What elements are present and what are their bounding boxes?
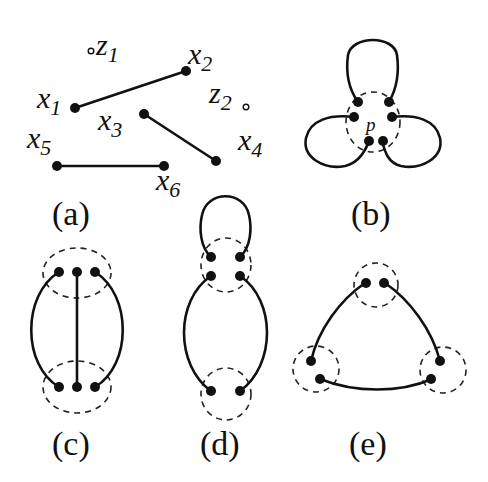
- dot: [54, 267, 64, 277]
- edge-x3-x4: [144, 114, 216, 161]
- dot: [206, 271, 216, 281]
- dot: [378, 136, 388, 146]
- edge-right: [240, 276, 267, 391]
- dot: [353, 97, 363, 107]
- dot: [387, 112, 397, 122]
- dot: [72, 267, 82, 277]
- edge-top-right: [385, 283, 440, 361]
- panel-c: (c): [31, 248, 123, 463]
- label-x6: x6: [155, 163, 180, 202]
- label-p: p: [364, 114, 376, 135]
- point-z1: [88, 48, 94, 54]
- dot: [54, 382, 64, 392]
- vertex-circle-left: [293, 346, 339, 392]
- dot: [90, 382, 100, 392]
- panel-a: x1 x2 x3 x4 x5 x6 z1 z2 (a): [26, 28, 262, 233]
- dot: [306, 356, 316, 366]
- label-z1: z1: [95, 28, 119, 67]
- caption-c: (c): [52, 425, 90, 463]
- panel-b: p (b): [306, 40, 441, 233]
- edge-left-right: [320, 379, 432, 390]
- dot: [235, 252, 245, 262]
- vertex-circle-top: [201, 238, 251, 292]
- label-z2: z2: [208, 76, 232, 115]
- vertex-circle-right: [420, 347, 466, 393]
- panel-d: (d): [184, 196, 267, 463]
- dot: [364, 136, 374, 146]
- point-x4: [211, 156, 221, 166]
- panel-e: (e): [293, 263, 466, 463]
- loop-top: [201, 196, 251, 257]
- point-x5: [52, 161, 62, 171]
- dot: [90, 267, 100, 277]
- point-z2: [243, 104, 249, 110]
- edge-left: [31, 272, 59, 387]
- dot: [315, 374, 325, 384]
- label-x4: x4: [237, 123, 262, 162]
- edge-left: [184, 276, 211, 391]
- dot: [235, 386, 245, 396]
- figure-canvas: x1 x2 x3 x4 x5 x6 z1 z2 (a) p (b): [0, 0, 488, 482]
- caption-d: (d): [200, 425, 240, 463]
- point-x1: [70, 103, 80, 113]
- edge-right: [95, 272, 123, 387]
- edge-x1-x2: [75, 71, 186, 108]
- caption-b: (b): [351, 195, 391, 233]
- dot: [349, 112, 359, 122]
- dot: [206, 252, 216, 262]
- dot: [206, 386, 216, 396]
- loop-left: [306, 116, 369, 167]
- dot: [361, 278, 371, 288]
- label-x5: x5: [26, 121, 51, 160]
- dot: [435, 356, 445, 366]
- dot: [379, 278, 389, 288]
- point-x3: [139, 109, 149, 119]
- caption-a: (a): [52, 195, 90, 233]
- caption-e: (e): [349, 425, 387, 463]
- dot: [384, 97, 394, 107]
- label-x1: x1: [36, 81, 61, 120]
- loop-right: [382, 116, 440, 167]
- dot: [426, 374, 436, 384]
- label-x3: x3: [97, 103, 122, 142]
- dot: [235, 271, 245, 281]
- dot: [72, 382, 82, 392]
